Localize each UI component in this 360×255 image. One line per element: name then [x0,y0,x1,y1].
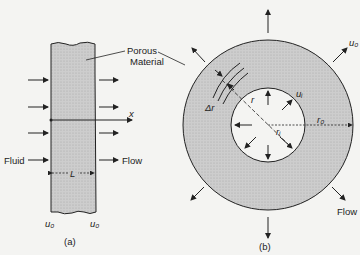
flow-label-b: Flow [337,206,357,217]
material-label: Material [130,56,164,67]
caption-b: (b) [259,241,271,252]
delta-r-label: Δr [204,102,215,113]
velocity-left-label: u₀ [45,218,54,229]
x-axis-label: x [128,108,135,119]
panel-a: x L Fluid Flow Porous Material u₀ u₀ (a) [4,42,185,247]
fluid-label: Fluid [4,155,25,166]
caption-a: (a) [64,236,76,247]
flow-label-a: Flow [122,155,142,166]
inner-velocity-label: uᵢ [296,88,303,99]
porous-flow-diagram: x L Fluid Flow Porous Material u₀ u₀ (a) [0,0,360,255]
outer-velocity-label: u₀ [349,37,358,48]
panel-b: r₀ r rᵢ Δr u₀ uᵢ Flow (b) [183,10,358,252]
velocity-right-label: u₀ [90,218,99,229]
outer-radius-label: r₀ [317,114,324,125]
porous-label: Porous [127,45,157,56]
length-label: L [70,168,75,179]
inflow-arrows [28,80,48,161]
